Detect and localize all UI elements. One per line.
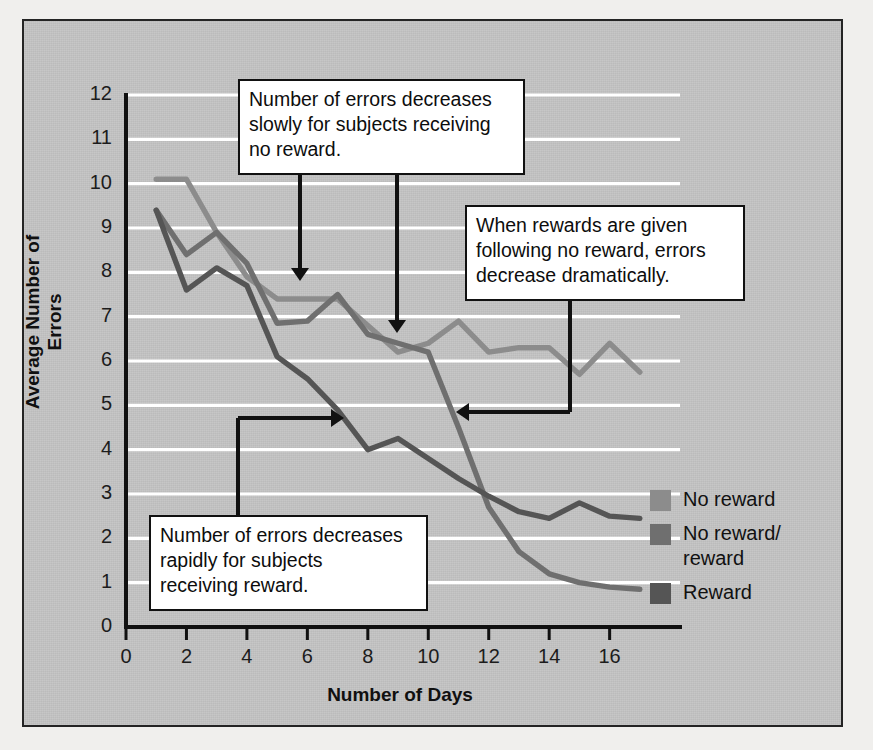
y-axis-tick-label: 2 bbox=[72, 525, 112, 548]
legend-label-line: No reward bbox=[683, 487, 775, 512]
y-axis-tick-label: 0 bbox=[72, 614, 112, 637]
annotation-line: following no reward, errors bbox=[476, 238, 734, 263]
annotation-no-reward-arrow-a-arrowhead bbox=[291, 268, 309, 281]
legend-item-no-reward-reward: No reward/ reward bbox=[650, 521, 820, 571]
annotation-line: slowly for subjects receiving bbox=[249, 112, 514, 137]
annotation-no-reward: Number of errors decreases slowly for su… bbox=[238, 79, 525, 175]
annotation-line: Number of errors decreases bbox=[249, 87, 514, 112]
annotation-line: decrease dramatically. bbox=[476, 263, 734, 288]
y-axis-tick-label: 4 bbox=[72, 437, 112, 460]
annotation-line: When rewards are given bbox=[476, 213, 734, 238]
y-axis-tick-label: 8 bbox=[72, 259, 112, 282]
y-axis-tick-label: 12 bbox=[72, 82, 112, 105]
x-axis-tick-label: 12 bbox=[469, 645, 509, 668]
x-axis-tick-label: 4 bbox=[227, 645, 267, 668]
annotation-rewards-given: When rewards are given following no rewa… bbox=[465, 205, 745, 301]
y-axis-tick-label: 9 bbox=[72, 215, 112, 238]
annotation-no-reward-arrow-b-arrowhead bbox=[388, 320, 406, 333]
legend-swatch-icon bbox=[650, 490, 671, 511]
legend-swatch-icon bbox=[650, 524, 671, 545]
x-axis-tick-label: 2 bbox=[166, 645, 206, 668]
x-axis-title: Number of Days bbox=[140, 684, 660, 706]
x-axis-tick-label: 0 bbox=[106, 645, 146, 668]
legend-swatch-icon bbox=[650, 583, 671, 604]
legend-item-reward: Reward bbox=[650, 580, 820, 605]
y-axis-tick-label: 5 bbox=[72, 392, 112, 415]
annotation-line: Number of errors decreases bbox=[160, 523, 417, 548]
legend-label: No reward/ reward bbox=[683, 521, 781, 571]
y-axis-tick-label: 7 bbox=[72, 304, 112, 327]
legend-label-line: No reward/ bbox=[683, 521, 781, 546]
y-axis-tick-label: 1 bbox=[72, 570, 112, 593]
chart-legend: No reward No reward/ reward Reward bbox=[650, 487, 820, 614]
annotation-line: rapidly for subjects bbox=[160, 548, 417, 573]
y-axis-tick-label: 10 bbox=[72, 171, 112, 194]
x-axis-tick-label: 10 bbox=[408, 645, 448, 668]
x-axis-tick-label: 8 bbox=[348, 645, 388, 668]
annotation-reward: Number of errors decreases rapidly for s… bbox=[149, 515, 428, 611]
y-axis-tick-label: 11 bbox=[72, 126, 112, 149]
x-axis-tick-label: 14 bbox=[529, 645, 569, 668]
y-axis-title: Average Number of Errors bbox=[22, 212, 66, 432]
legend-label: Reward bbox=[683, 580, 752, 605]
legend-item-no-reward: No reward bbox=[650, 487, 820, 512]
legend-label: No reward bbox=[683, 487, 775, 512]
y-axis-tick-label: 3 bbox=[72, 481, 112, 504]
legend-label-line: Reward bbox=[683, 580, 752, 605]
x-axis-tick-label: 6 bbox=[287, 645, 327, 668]
annotation-line: receiving reward. bbox=[160, 573, 417, 598]
annotation-line: no reward. bbox=[249, 137, 514, 162]
y-axis-tick-label: 6 bbox=[72, 348, 112, 371]
x-axis-tick-label: 16 bbox=[590, 645, 630, 668]
legend-label-line: reward bbox=[683, 546, 781, 571]
